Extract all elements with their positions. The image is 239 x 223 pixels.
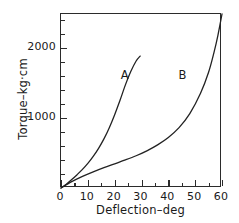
y-tick-minor [61, 34, 65, 35]
x-tick-label: 60 [206, 190, 236, 203]
y-tick-minor [61, 104, 65, 105]
curve-label-a: A [121, 68, 129, 82]
curve-label-b: B [178, 68, 186, 82]
x-tick-major [142, 180, 143, 186]
chart-figure: 0102030405060 10002000 Deflection–deg To… [0, 0, 239, 223]
x-tick-minor [155, 183, 156, 187]
x-tick-major [195, 180, 196, 186]
x-tick-label: 40 [152, 190, 182, 203]
x-tick-label: 50 [179, 190, 209, 203]
x-tick-minor [209, 183, 210, 187]
y-tick-major [61, 118, 67, 119]
y-tick-minor [61, 132, 65, 133]
y-tick-minor [61, 160, 65, 161]
x-tick-major [88, 180, 89, 186]
x-tick-major [222, 180, 223, 186]
y-tick-minor [61, 62, 65, 63]
x-tick-major [168, 180, 169, 186]
y-tick-major [61, 48, 67, 49]
y-axis-title: Torque–kg·cm [16, 29, 30, 169]
curve-b [61, 14, 222, 188]
y-tick-minor [61, 174, 65, 175]
x-tick-minor [182, 183, 183, 187]
x-tick-minor [101, 183, 102, 187]
y-tick-minor [61, 146, 65, 147]
x-tick-minor [74, 183, 75, 187]
y-tick-label: 1000 [27, 110, 56, 123]
y-tick-minor [61, 20, 65, 21]
x-tick-major [115, 180, 116, 186]
y-tick-minor [61, 90, 65, 91]
x-tick-minor [128, 183, 129, 187]
plot-area [60, 13, 221, 187]
y-tick-minor [61, 76, 65, 77]
x-tick-label: 20 [99, 190, 129, 203]
curve-layer [61, 14, 222, 188]
x-tick-major [61, 180, 62, 186]
x-tick-label: 30 [126, 190, 156, 203]
x-tick-label: 0 [45, 190, 75, 203]
y-tick-label: 2000 [27, 40, 56, 53]
x-axis-title: Deflection–deg [60, 203, 221, 217]
x-tick-label: 10 [72, 190, 102, 203]
